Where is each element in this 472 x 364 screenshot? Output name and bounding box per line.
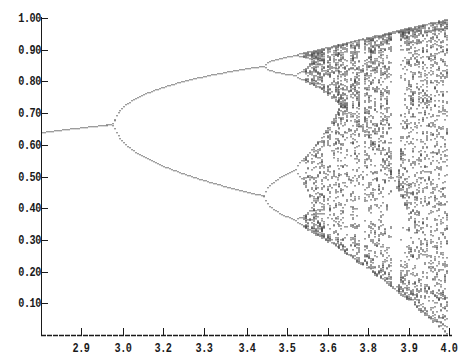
y-tick-label: 0.40	[17, 203, 41, 215]
x-tick-label: 3.4	[234, 343, 260, 355]
x-tick-label: 3.9	[396, 343, 422, 355]
y-tick-label: 0.70	[17, 108, 41, 120]
y-tick-label: 0.30	[17, 235, 41, 247]
x-tick-label: 3.3	[191, 343, 217, 355]
x-tick-label: 3.8	[355, 343, 381, 355]
x-tick-label: 2.9	[68, 343, 94, 355]
bifurcation-points	[43, 19, 447, 335]
x-tick-label: 3.0	[110, 343, 136, 355]
axes	[41, 17, 452, 336]
y-tick-label: 0.20	[17, 267, 41, 279]
x-tick-label: 3.2	[150, 343, 176, 355]
y-ticks	[42, 19, 48, 304]
y-tick-label: 0.80	[17, 76, 41, 88]
bifurcation-chart	[0, 0, 472, 364]
data-points	[43, 19, 447, 335]
x-ticks	[82, 328, 450, 336]
x-tick-label: 3.6	[315, 343, 341, 355]
y-tick-label: 1.00	[17, 13, 41, 25]
y-tick-label: 0.60	[17, 140, 41, 152]
y-tick-label: 0.10	[17, 298, 41, 310]
x-tick-label: 4.0	[436, 343, 462, 355]
y-tick-label: 0.50	[17, 172, 41, 184]
x-tick-label: 3.5	[274, 343, 300, 355]
y-tick-label: 0.90	[17, 45, 41, 57]
